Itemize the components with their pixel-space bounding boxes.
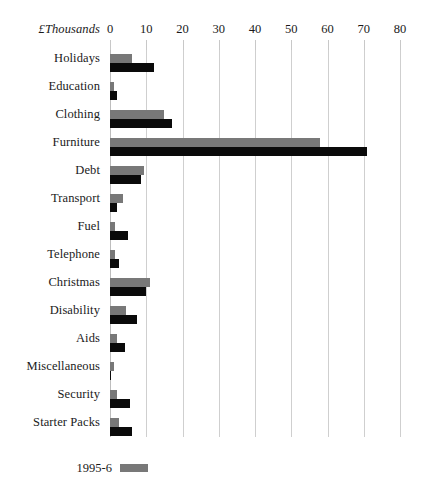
x-tick-label-40: 40 — [242, 22, 268, 37]
x-tick-label-0: 0 — [97, 22, 123, 37]
bar-holidays-series-1 — [110, 63, 154, 72]
plot-area — [110, 45, 400, 437]
x-axis-title: £Thousands — [14, 22, 100, 37]
category-label-telephone: Telephone — [14, 247, 100, 262]
chart-row — [110, 269, 400, 297]
chart-row — [110, 101, 400, 129]
category-label-aids: Aids — [14, 331, 100, 346]
gridline — [400, 45, 401, 437]
category-label-transport: Transport — [14, 191, 100, 206]
bar-transport-series-0 — [110, 194, 123, 203]
bar-aids-series-0 — [110, 334, 117, 343]
chart-row — [110, 353, 400, 381]
bar-security-series-1 — [110, 399, 130, 408]
chart-row — [110, 297, 400, 325]
bar-miscellaneous-series-1 — [110, 371, 111, 380]
chart-row — [110, 157, 400, 185]
bar-disability-series-0 — [110, 306, 126, 315]
bar-security-series-0 — [110, 390, 117, 399]
bar-aids-series-1 — [110, 343, 125, 352]
bar-christmas-series-0 — [110, 278, 150, 287]
category-label-fuel: Fuel — [14, 219, 100, 234]
x-tick-mark — [328, 40, 329, 50]
bar-holidays-series-0 — [110, 54, 132, 63]
category-label-holidays: Holidays — [14, 51, 100, 66]
bar-disability-series-1 — [110, 315, 137, 324]
bar-furniture-series-0 — [110, 138, 320, 147]
chart-row — [110, 325, 400, 353]
bar-education-series-1 — [110, 91, 117, 100]
x-tick-label-80: 80 — [387, 22, 413, 37]
bar-furniture-series-1 — [110, 147, 367, 156]
x-tick-mark — [146, 40, 147, 50]
bar-clothing-series-1 — [110, 119, 172, 128]
category-label-disability: Disability — [14, 303, 100, 318]
chart-row — [110, 409, 400, 437]
chart-row — [110, 73, 400, 101]
chart-row — [110, 381, 400, 409]
x-tick-mark — [364, 40, 365, 50]
x-tick-label-10: 10 — [133, 22, 159, 37]
x-tick-label-60: 60 — [315, 22, 341, 37]
bar-debt-series-1 — [110, 175, 141, 184]
bar-miscellaneous-series-0 — [110, 362, 114, 371]
x-tick-mark — [183, 40, 184, 50]
bar-christmas-series-1 — [110, 287, 146, 296]
x-tick-label-70: 70 — [351, 22, 377, 37]
chart-row — [110, 185, 400, 213]
category-label-clothing: Clothing — [14, 107, 100, 122]
category-label-security: Security — [14, 387, 100, 402]
x-tick-label-50: 50 — [278, 22, 304, 37]
bar-fuel-series-0 — [110, 222, 115, 231]
chart-row — [110, 129, 400, 157]
x-tick-mark — [110, 40, 111, 50]
chart-row — [110, 241, 400, 269]
bar-fuel-series-1 — [110, 231, 128, 240]
category-label-christmas: Christmas — [14, 275, 100, 290]
legend-swatch-1995-6 — [120, 464, 148, 472]
x-tick-mark — [255, 40, 256, 50]
x-tick-label-20: 20 — [170, 22, 196, 37]
category-label-debt: Debt — [14, 163, 100, 178]
x-tick-mark — [219, 40, 220, 50]
bar-clothing-series-0 — [110, 110, 164, 119]
legend-label-1995-6: 1995-6 — [0, 461, 112, 476]
x-tick-mark — [400, 40, 401, 50]
bar-telephone-series-0 — [110, 250, 115, 259]
bar-starter-packs-series-1 — [110, 427, 132, 436]
chart-row — [110, 213, 400, 241]
bar-starter-packs-series-0 — [110, 418, 119, 427]
category-label-miscellaneous: Miscellaneous — [14, 359, 100, 374]
chart-legend: 1995-6 — [0, 458, 430, 482]
category-label-furniture: Furniture — [14, 135, 100, 150]
x-tick-mark — [291, 40, 292, 50]
bar-education-series-0 — [110, 82, 114, 91]
category-label-education: Education — [14, 79, 100, 94]
bar-transport-series-1 — [110, 203, 117, 212]
bar-chart: £Thousands 01020304050607080 1995-6 Holi… — [0, 0, 430, 484]
bar-debt-series-0 — [110, 166, 144, 175]
bar-telephone-series-1 — [110, 259, 119, 268]
category-label-starter-packs: Starter Packs — [14, 415, 100, 430]
x-tick-label-30: 30 — [206, 22, 232, 37]
